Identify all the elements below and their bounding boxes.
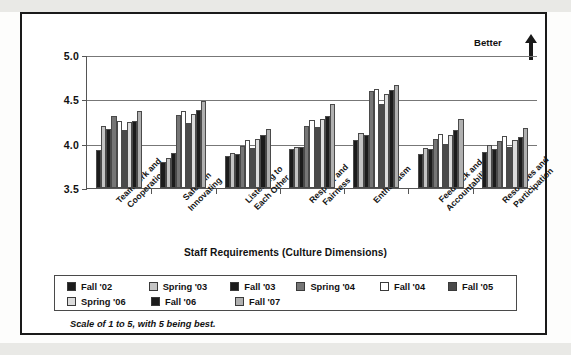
bar[interactable]: [245, 140, 250, 188]
legend-swatch: [149, 282, 158, 291]
bar[interactable]: [186, 123, 191, 188]
bar[interactable]: [448, 135, 453, 188]
bar[interactable]: [384, 94, 389, 188]
page-margin-bottom: [0, 343, 571, 355]
category-tick: [408, 188, 409, 194]
y-axis-tick-label: 4.0: [64, 139, 79, 151]
bar[interactable]: [320, 119, 325, 188]
bar[interactable]: [518, 137, 523, 188]
legend-label: Spring '06: [81, 297, 126, 307]
bar[interactable]: [240, 146, 245, 188]
bar[interactable]: [374, 89, 379, 188]
bar[interactable]: [453, 130, 458, 188]
chart-frame: Better 3.54.04.55.0 Staff Requirements (…: [20, 12, 547, 335]
bar[interactable]: [132, 121, 137, 188]
legend-label: Spring '03: [163, 282, 208, 292]
legend-item[interactable]: Fall '07: [235, 297, 303, 307]
y-axis-tick: [82, 189, 87, 190]
bar[interactable]: [96, 150, 101, 188]
bar[interactable]: [309, 120, 314, 188]
page-margin-top: [0, 0, 571, 12]
legend-label: Fall '03: [244, 282, 275, 292]
bar[interactable]: [492, 149, 497, 188]
bar[interactable]: [438, 134, 443, 188]
y-axis-tick-label: 3.5: [64, 183, 79, 195]
legend-swatch: [67, 282, 76, 291]
legend-swatch: [380, 282, 389, 291]
bar[interactable]: [225, 156, 230, 188]
legend-item[interactable]: Fall '06: [151, 297, 235, 307]
bar[interactable]: [106, 129, 111, 188]
legend-swatch: [67, 297, 76, 306]
bar[interactable]: [299, 147, 304, 188]
bar[interactable]: [364, 135, 369, 188]
bar[interactable]: [260, 135, 265, 188]
bar[interactable]: [127, 122, 132, 188]
bar[interactable]: [458, 119, 463, 188]
legend-swatch: [448, 282, 457, 291]
bar-group: [151, 55, 215, 188]
bar[interactable]: [166, 158, 171, 188]
bar[interactable]: [502, 136, 507, 188]
bar[interactable]: [418, 154, 423, 188]
bar[interactable]: [230, 153, 235, 188]
bar[interactable]: [423, 148, 428, 188]
figure-container: Better 3.54.04.55.0 Staff Requirements (…: [0, 0, 571, 355]
legend-item[interactable]: Spring '03: [149, 282, 231, 292]
bar[interactable]: [353, 140, 358, 188]
bar[interactable]: [523, 128, 528, 188]
bar[interactable]: [315, 127, 320, 188]
legend-row: Spring '06Fall '06Fall '07: [55, 294, 516, 309]
bar[interactable]: [512, 140, 517, 188]
bar[interactable]: [507, 147, 512, 188]
bar[interactable]: [497, 141, 502, 188]
bar[interactable]: [304, 126, 309, 188]
legend-label: Fall '07: [249, 297, 280, 307]
bar[interactable]: [294, 147, 299, 188]
bar[interactable]: [171, 153, 176, 188]
bar-group: [344, 55, 408, 188]
bar-group: [473, 55, 537, 188]
bar[interactable]: [176, 115, 181, 188]
legend-item[interactable]: Fall '02: [67, 282, 149, 292]
bar[interactable]: [117, 121, 122, 188]
bar[interactable]: [487, 145, 492, 188]
bar[interactable]: [325, 116, 330, 188]
legend-swatch: [151, 297, 160, 306]
bar[interactable]: [266, 129, 271, 188]
chart-legend: Fall '02Spring '03Fall '03Spring '04Fall…: [54, 275, 517, 311]
bar-group: [280, 55, 344, 188]
bar[interactable]: [330, 104, 335, 188]
bar[interactable]: [433, 139, 438, 188]
bar[interactable]: [289, 149, 294, 188]
bar[interactable]: [101, 126, 106, 188]
bar[interactable]: [443, 144, 448, 188]
legend-item[interactable]: Fall '03: [230, 282, 296, 292]
legend-item[interactable]: Spring '06: [67, 297, 151, 307]
legend-item[interactable]: Spring '04: [296, 282, 380, 292]
bar-group: [216, 55, 280, 188]
legend-item[interactable]: Fall '05: [448, 282, 516, 292]
bar[interactable]: [122, 130, 127, 188]
bar[interactable]: [191, 114, 196, 188]
bar[interactable]: [181, 111, 186, 188]
bar[interactable]: [235, 154, 240, 188]
bar[interactable]: [201, 101, 206, 188]
bar[interactable]: [255, 139, 260, 188]
bar[interactable]: [394, 85, 399, 188]
bar[interactable]: [250, 148, 255, 188]
legend-row: Fall '02Spring '03Fall '03Spring '04Fall…: [55, 279, 516, 294]
legend-item[interactable]: Fall '04: [380, 282, 448, 292]
bar[interactable]: [137, 111, 142, 188]
bar[interactable]: [428, 149, 433, 188]
bar[interactable]: [369, 91, 374, 188]
bar[interactable]: [196, 110, 201, 188]
bar[interactable]: [379, 104, 384, 188]
bar[interactable]: [358, 133, 363, 188]
bar[interactable]: [389, 90, 394, 188]
y-axis-tick-label: 4.5: [64, 94, 79, 106]
bar[interactable]: [160, 162, 165, 188]
chart-footnote: Scale of 1 to 5, with 5 being best.: [70, 319, 216, 329]
bar[interactable]: [482, 152, 487, 188]
bar[interactable]: [111, 116, 116, 188]
